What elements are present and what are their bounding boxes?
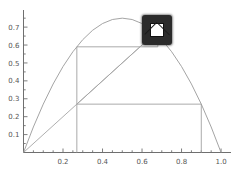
y-tick-label: 0.1 [8,131,19,139]
x-tick-label: 0.8 [176,158,187,166]
plot-canvas: 0.20.40.60.81.00.10.20.30.40.50.60.7 [0,0,244,173]
x-tick-label: 0.4 [97,158,109,166]
y-tick-label: 0.7 [8,24,19,32]
y-tick-label: 0.3 [8,95,19,103]
x-marker-icon[interactable] [142,15,172,45]
cobweb-path [77,31,201,153]
cobweb-plot-figure: 0.20.40.60.81.00.10.20.30.40.50.60.7 [0,0,244,173]
tick-labels-group: 0.20.40.60.81.00.10.20.30.40.50.60.7 [8,24,226,166]
y-tick-label: 0.6 [8,42,20,50]
identity-diagonal-line [24,31,158,153]
data-series-group [24,18,222,152]
x-marker-inner [150,23,164,37]
x-tick-label: 0.2 [57,158,68,166]
parabola-curve [24,18,222,152]
y-tick-label: 0.2 [8,113,19,121]
x-tick-label: 1.0 [215,158,226,166]
x-tick-label: 0.6 [136,158,148,166]
y-tick-label: 0.5 [8,60,19,68]
ticks-group [24,18,222,152]
y-tick-label: 0.4 [8,77,20,85]
